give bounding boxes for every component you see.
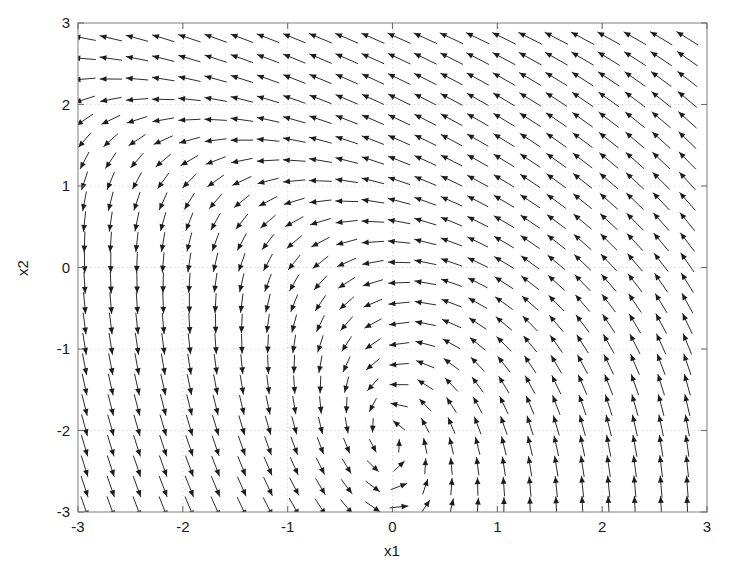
vector-arrow — [212, 253, 218, 271]
arrow-head — [291, 346, 297, 353]
vector-arrow — [265, 314, 271, 332]
arrow-head — [266, 407, 272, 414]
vector-arrow — [257, 75, 279, 83]
arrow-head — [657, 395, 663, 402]
vector-arrow — [186, 415, 193, 435]
vector-arrow — [388, 177, 409, 185]
arrow-head — [109, 449, 114, 456]
arrow-head — [81, 204, 87, 211]
vector-arrow — [527, 457, 533, 476]
arrow-head — [214, 469, 219, 476]
arrow-head — [388, 218, 395, 224]
vector-arrow — [552, 396, 560, 415]
vector-arrow — [448, 418, 455, 434]
arrow-head — [475, 498, 481, 505]
arrow-head — [415, 197, 422, 202]
arrow-head — [100, 76, 107, 82]
vector-arrow — [108, 313, 114, 334]
vector-arrow — [632, 456, 638, 477]
vector-arrow — [290, 478, 299, 495]
vector-arrow — [370, 439, 377, 452]
arrow-head — [212, 244, 217, 251]
y-tick-label: 3 — [62, 14, 70, 31]
arrow-head — [162, 469, 167, 476]
vector-arrow — [317, 438, 324, 454]
arrow-head — [525, 356, 531, 363]
arrow-head — [212, 285, 218, 292]
vector-arrow — [494, 216, 513, 227]
arrow-head — [573, 174, 580, 180]
arrow-head — [677, 32, 684, 38]
arrow-head — [651, 52, 658, 58]
vector-arrow — [126, 76, 148, 82]
arrow-head — [133, 203, 138, 210]
vector-arrow — [495, 297, 512, 309]
vector-arrow — [389, 321, 409, 327]
arrow-head — [363, 281, 370, 286]
arrow-head — [553, 436, 559, 443]
arrow-head — [239, 347, 245, 354]
arrow-head — [448, 458, 454, 465]
arrow-head — [475, 478, 481, 485]
vector-arrow — [598, 32, 620, 44]
arrow-head — [179, 55, 186, 60]
y-tick-label: 0 — [62, 259, 70, 276]
vector-arrow — [336, 198, 358, 204]
arrow-head — [240, 387, 246, 394]
arrow-head — [288, 263, 294, 270]
vector-arrow — [521, 256, 539, 269]
vector-arrow — [415, 320, 435, 326]
vector-arrow — [422, 459, 428, 474]
arrow-head — [188, 469, 193, 476]
arrow-head — [153, 118, 160, 124]
arrow-head — [388, 156, 395, 161]
vector-arrow — [415, 135, 436, 145]
arrow-head — [441, 238, 448, 243]
arrow-head — [161, 368, 167, 375]
vector-arrow — [441, 258, 462, 266]
vector-arrow — [231, 75, 253, 83]
arrow-head — [231, 96, 238, 102]
vector-arrow — [179, 117, 200, 123]
vector-arrow — [344, 418, 350, 433]
arrow-head — [579, 476, 585, 483]
arrow-head — [231, 116, 238, 122]
arrow-head — [344, 406, 350, 413]
vector-arrow — [152, 96, 174, 102]
vector-arrow — [231, 96, 253, 103]
arrow-head — [521, 195, 528, 201]
arrow-head — [100, 97, 107, 103]
vector-arrow — [468, 278, 487, 288]
arrow-head — [106, 161, 112, 168]
vector-arrow — [574, 194, 592, 209]
vector-arrow — [683, 354, 691, 374]
vector-arrow — [187, 334, 193, 354]
vector-arrow — [81, 172, 88, 190]
arrow-head — [573, 153, 580, 159]
arrow-head — [126, 55, 133, 61]
arrow-head — [336, 115, 343, 120]
arrow-head — [550, 336, 556, 343]
vector-arrow — [495, 257, 514, 268]
arrow-head — [655, 294, 661, 301]
arrow-head — [336, 198, 343, 204]
vector-arrow — [414, 33, 437, 43]
arrow-head — [134, 224, 140, 231]
arrow-head — [135, 368, 141, 375]
vector-arrow — [627, 193, 644, 209]
arrow-head — [213, 327, 219, 334]
vector-arrow — [291, 335, 297, 353]
vector-arrow — [362, 198, 384, 204]
vector-arrow — [82, 395, 88, 416]
vector-arrow — [598, 72, 619, 86]
arrow-head — [136, 449, 141, 456]
vector-arrow — [257, 116, 279, 122]
vector-arrow — [179, 55, 201, 62]
vector-arrow — [520, 134, 540, 147]
vector-arrow — [493, 73, 515, 85]
arrow-head — [598, 72, 605, 78]
arrow-head — [652, 92, 659, 98]
vector-arrow — [547, 154, 566, 168]
arrow-head — [572, 72, 579, 78]
arrow-head — [188, 449, 193, 456]
